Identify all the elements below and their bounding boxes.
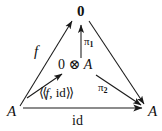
center-zero-label: 0 <box>58 57 66 72</box>
edge-label-pi2: π2 <box>98 82 108 95</box>
commutative-diagram: 0 0⊗A A A f π1 ⟨⟨f, id⟩⟩ π2 id <box>0 0 162 131</box>
node-center-tensor: 0⊗A <box>58 58 93 72</box>
node-bottom-right-a: A <box>148 104 157 119</box>
pairing-id: id <box>56 85 66 100</box>
tensor-icon: ⊗ <box>69 57 81 72</box>
pairing-close-bracket: ⟩⟩ <box>66 86 73 99</box>
node-bottom-left-a: A <box>7 104 16 119</box>
node-top-zero: 0 <box>77 4 85 19</box>
center-a-label: A <box>84 57 93 72</box>
pi1-subscript: 1 <box>90 40 94 49</box>
edge-label-pairing: ⟨⟨f, id⟩⟩ <box>39 86 72 99</box>
edge-label-id: id <box>72 114 83 128</box>
edge-label-pi1: π1 <box>84 36 94 49</box>
pi2-subscript: 2 <box>104 86 108 95</box>
edge-label-f: f <box>34 44 38 59</box>
